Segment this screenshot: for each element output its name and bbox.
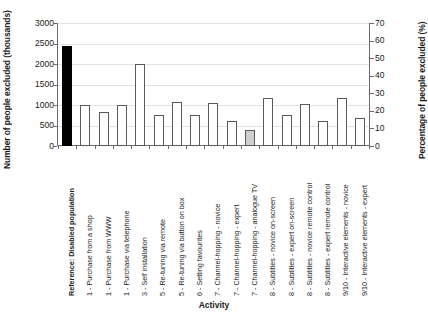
y-axis-right-tick-label: 0 [375,142,401,151]
y-axis-left-tick-mark [53,105,57,106]
y-axis-right-tick-mark [370,146,374,147]
bar [355,118,365,146]
bar [99,112,109,146]
x-axis-title: Activity [0,300,428,310]
y-axis-right-tick-mark [370,111,374,112]
x-axis-category-label: 7 - Channel-hopping - analogue TV [241,150,259,296]
x-axis-category-label: 6 - Setting favourites [186,150,204,296]
x-axis-tick-mark [95,146,96,149]
y-axis-left-tick-mark [53,23,57,24]
x-axis-category-label: 5 - Re-tuning via remote [149,150,167,296]
y-axis-right-tick-mark [370,23,374,24]
x-axis-tick-mark [168,146,169,149]
bar [263,98,273,146]
x-axis-category-label: Reference: Disabled population [58,150,76,296]
y-axis-right-tick-mark [370,128,374,129]
y-axis-right-tick-label: 40 [375,71,401,80]
y-axis-left-tick-label: 1500 [12,80,54,89]
bars-group [58,23,369,146]
x-axis-category-label: 1 - Purchase from a shop [76,150,94,296]
y-axis-right-tick-mark [370,58,374,59]
bar-slot [95,23,113,146]
x-axis-tick-mark [351,146,352,149]
x-axis-tick-mark [113,146,114,149]
bar-slot [204,23,222,146]
y-axis-left-tick-mark [53,64,57,65]
y-axis-left-tick-mark [53,44,57,45]
x-axis-tick-mark [131,146,132,149]
bar [154,115,164,146]
bar-slot [332,23,350,146]
bar-slot [186,23,204,146]
bar-slot [149,23,167,146]
x-axis-tick-mark [241,146,242,149]
y-axis-left-tick-label: 0 [12,142,54,151]
y-axis-right-tick-mark [370,41,374,42]
bar-slot [58,23,76,146]
bar-slot [113,23,131,146]
bar [190,115,200,146]
x-axis-tick-mark [369,146,370,149]
x-axis-category-label: 7 - Channel-hopping - novice [204,150,222,296]
x-axis-tick-mark [204,146,205,149]
x-axis-category-label: 3 - Self installation [131,150,149,296]
y-axis-right-tick-label: 70 [375,19,401,28]
x-axis-tick-mark [58,146,59,149]
x-axis-tick-mark [332,146,333,149]
y-axis-right-tick-label: 20 [375,106,401,115]
x-axis-tick-mark [296,146,297,149]
y-axis-left-tick-label: 1000 [12,101,54,110]
x-axis-tick-mark [278,146,279,149]
y-axis-right-tick-label: 10 [375,124,401,133]
bar [172,102,182,146]
bar-slot [241,23,259,146]
bar-slot [76,23,94,146]
bar [300,104,310,146]
x-axis-category-label: 8 - Subtitles - expert on-screen [278,150,296,296]
bar [337,98,347,146]
bar [80,105,90,146]
x-axis-category-label: 7 - Channel-hopping - expert [223,150,241,296]
bar [245,130,255,146]
bar [135,64,145,146]
bar-slot [278,23,296,146]
y-axis-right-tick-label: 50 [375,54,401,63]
bar [318,121,328,146]
bar [282,115,292,146]
x-axis-category-labels: Reference: Disabled population1 - Purcha… [58,150,369,298]
x-axis-tick-mark [223,146,224,149]
y-axis-left-tick-mark [53,146,57,147]
x-axis-category-label: 9/10 - Interactive elements - novice [332,150,350,296]
x-axis-tick-mark [76,146,77,149]
bar-slot [296,23,314,146]
bar-slot [259,23,277,146]
x-axis-category-label: 8 - Subtitles - expert remote control [314,150,332,296]
y-axis-left-tick-label: 2500 [12,39,54,48]
bar-chart: Number of people excluded (thousands) Pe… [0,0,428,321]
bar-slot [131,23,149,146]
bar-slot [351,23,369,146]
x-axis-category-label: 8 - Subtitles - novice remote control [296,150,314,296]
y-axis-left-tick-mark [53,85,57,86]
x-axis-category-label: 1 - Purchase from WWW [95,150,113,296]
y-axis-right-title: Percentage of people excluded (%) [416,14,428,166]
x-axis-tick-mark [259,146,260,149]
x-axis-category-label: 5 - Re-tuning via button on box [168,150,186,296]
y-axis-right-tick-label: 30 [375,89,401,98]
x-axis-tick-mark [186,146,187,149]
x-axis-tick-mark [314,146,315,149]
bar-slot [314,23,332,146]
bar [227,121,237,146]
y-axis-right-tick-label: 60 [375,36,401,45]
x-axis-category-label: 9/10 - Interactive elements - expert [351,150,369,296]
y-axis-right-tick-mark [370,76,374,77]
y-axis-left-tick-label: 2000 [12,60,54,69]
bar [62,46,72,146]
bar-slot [223,23,241,146]
y-axis-left-tick-label: 3000 [12,19,54,28]
y-axis-left-tick-mark [53,126,57,127]
x-axis-category-label: 8 - Subtitles - novice on-screen [259,150,277,296]
y-axis-right-tick-mark [370,93,374,94]
x-axis-tick-mark [149,146,150,149]
bar-slot [168,23,186,146]
